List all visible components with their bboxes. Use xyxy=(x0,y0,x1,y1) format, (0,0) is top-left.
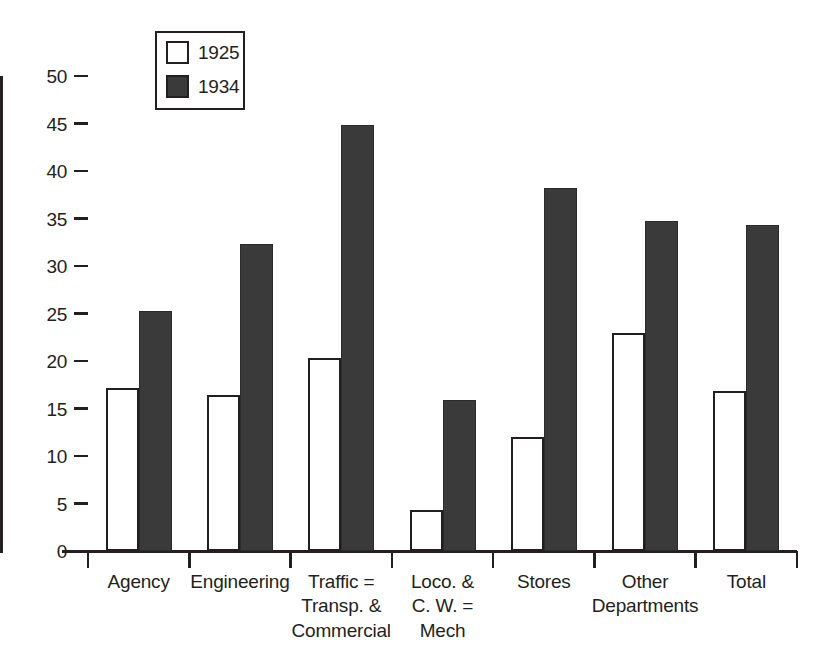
x-axis-tick xyxy=(87,551,90,568)
bar-1934-1 xyxy=(139,311,172,551)
bar-1934-4 xyxy=(443,400,476,551)
bar-1934-2 xyxy=(240,244,273,551)
legend-entry-1925: 1925 xyxy=(166,41,239,64)
legend-swatch-open-square xyxy=(166,41,189,64)
bar-1934-7 xyxy=(746,225,779,551)
bars-layer xyxy=(0,0,830,551)
legend-entry-1934: 1934 xyxy=(166,75,239,98)
x-axis-category-label: Total xyxy=(684,570,809,594)
bar-1925-1 xyxy=(106,388,139,551)
x-axis-tick xyxy=(391,551,394,568)
bar-1934-3 xyxy=(341,125,374,551)
bar-1925-3 xyxy=(308,358,341,551)
x-axis-tick xyxy=(289,551,292,568)
legend-label-1925: 1925 xyxy=(198,43,239,62)
x-axis-tick xyxy=(593,551,596,568)
bar-1925-4 xyxy=(410,510,443,551)
bar-1934-5 xyxy=(544,188,577,551)
chart-legend: 1925 1934 xyxy=(155,31,245,110)
bar-1934-6 xyxy=(645,221,678,551)
legend-swatch-filled-square xyxy=(166,75,189,98)
x-axis-tick xyxy=(492,551,495,568)
bar-1925-6 xyxy=(612,333,645,552)
bar-chart: 1925 1934 05101520253035404550 AgencyEng… xyxy=(0,0,830,666)
legend-label-1934: 1934 xyxy=(198,77,239,96)
bar-1925-2 xyxy=(207,395,240,551)
bar-1925-7 xyxy=(713,391,746,551)
x-axis-tick xyxy=(694,551,697,568)
x-axis-tick xyxy=(796,551,799,568)
bar-1925-5 xyxy=(511,437,544,551)
x-axis-tick xyxy=(188,551,191,568)
